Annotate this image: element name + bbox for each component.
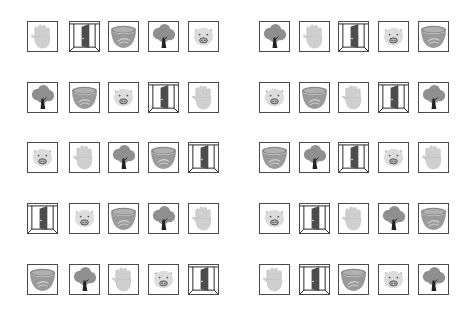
right-cell-r5-c4-pig bbox=[378, 264, 409, 295]
right-cell-r5-c1-hand bbox=[259, 264, 290, 295]
right-cell-r4-c4-tree bbox=[378, 203, 409, 234]
door-icon bbox=[339, 22, 368, 51]
right-cell-r3-c4-pig bbox=[378, 142, 409, 173]
left-cell-r5-c1-bowl bbox=[27, 264, 58, 295]
left-cell-r2-c2-bowl bbox=[69, 82, 100, 113]
tree-icon bbox=[260, 22, 289, 51]
left-cell-r5-c2-tree bbox=[69, 264, 100, 295]
bowl-icon bbox=[339, 265, 368, 294]
right-cell-r5-c5-tree bbox=[418, 264, 449, 295]
right-cell-r1-c1-tree bbox=[259, 21, 290, 52]
left-cell-r3-c5-door bbox=[188, 142, 219, 173]
door-icon bbox=[70, 22, 99, 51]
bowl-icon bbox=[300, 83, 329, 112]
right-cell-r4-c2-door bbox=[299, 203, 330, 234]
left-cell-r4-c3-bowl bbox=[108, 203, 139, 234]
pig-icon bbox=[28, 143, 57, 172]
bowl-icon bbox=[419, 22, 448, 51]
right-cell-r1-c2-hand bbox=[299, 21, 330, 52]
bowl-icon bbox=[109, 204, 138, 233]
pig-icon bbox=[260, 83, 289, 112]
door-icon bbox=[149, 83, 178, 112]
bowl-icon bbox=[419, 204, 448, 233]
tree-icon bbox=[149, 22, 178, 51]
tree-icon bbox=[149, 204, 178, 233]
right-cell-r5-c2-door bbox=[299, 264, 330, 295]
left-cell-r4-c1-door bbox=[27, 203, 58, 234]
right-cell-r5-c3-bowl bbox=[338, 264, 369, 295]
door-icon bbox=[189, 265, 218, 294]
door-icon bbox=[300, 204, 329, 233]
right-cell-r4-c1-pig bbox=[259, 203, 290, 234]
bowl-icon bbox=[260, 143, 289, 172]
door-icon bbox=[28, 204, 57, 233]
left-cell-r1-c2-door bbox=[69, 21, 100, 52]
left-cell-r2-c3-pig bbox=[108, 82, 139, 113]
left-cell-r1-c4-tree bbox=[148, 21, 179, 52]
pig-icon bbox=[109, 83, 138, 112]
bowl-icon bbox=[70, 83, 99, 112]
hand-icon bbox=[28, 22, 57, 51]
hand-icon bbox=[339, 204, 368, 233]
hand-icon bbox=[260, 265, 289, 294]
right-cell-r2-c1-pig bbox=[259, 82, 290, 113]
pig-icon bbox=[70, 204, 99, 233]
right-cell-r3-c2-tree bbox=[299, 142, 330, 173]
hand-icon bbox=[189, 83, 218, 112]
right-cell-r1-c4-pig bbox=[378, 21, 409, 52]
hand-icon bbox=[300, 22, 329, 51]
left-cell-r1-c1-hand bbox=[27, 21, 58, 52]
tree-icon bbox=[419, 265, 448, 294]
tree-icon bbox=[70, 265, 99, 294]
pig-icon bbox=[260, 204, 289, 233]
hand-icon bbox=[339, 83, 368, 112]
door-icon bbox=[339, 143, 368, 172]
pig-icon bbox=[149, 265, 178, 294]
hand-icon bbox=[189, 204, 218, 233]
tree-icon bbox=[379, 204, 408, 233]
right-cell-r4-c5-bowl bbox=[418, 203, 449, 234]
tree-icon bbox=[419, 83, 448, 112]
door-icon bbox=[300, 265, 329, 294]
pig-icon bbox=[379, 265, 408, 294]
hand-icon bbox=[70, 143, 99, 172]
left-cell-r5-c4-pig bbox=[148, 264, 179, 295]
pig-icon bbox=[379, 22, 408, 51]
left-cell-r1-c5-pig bbox=[188, 21, 219, 52]
left-cell-r5-c5-door bbox=[188, 264, 219, 295]
bowl-icon bbox=[109, 22, 138, 51]
right-cell-r2-c2-bowl bbox=[299, 82, 330, 113]
right-cell-r2-c5-tree bbox=[418, 82, 449, 113]
left-cell-r4-c2-pig bbox=[69, 203, 100, 234]
right-cell-r1-c5-bowl bbox=[418, 21, 449, 52]
bowl-icon bbox=[28, 265, 57, 294]
left-cell-r3-c1-pig bbox=[27, 142, 58, 173]
hand-icon bbox=[109, 265, 138, 294]
bowl-icon bbox=[149, 143, 178, 172]
left-cell-r3-c3-tree bbox=[108, 142, 139, 173]
right-cell-r2-c3-hand bbox=[338, 82, 369, 113]
tree-icon bbox=[109, 143, 138, 172]
tree-icon bbox=[300, 143, 329, 172]
pig-icon bbox=[189, 22, 218, 51]
right-cell-r3-c1-bowl bbox=[259, 142, 290, 173]
right-cell-r3-c5-hand bbox=[418, 142, 449, 173]
left-cell-r4-c4-tree bbox=[148, 203, 179, 234]
door-icon bbox=[189, 143, 218, 172]
right-cell-r3-c3-door bbox=[338, 142, 369, 173]
door-icon bbox=[379, 83, 408, 112]
left-cell-r3-c2-hand bbox=[69, 142, 100, 173]
hand-icon bbox=[419, 143, 448, 172]
left-cell-r1-c3-bowl bbox=[108, 21, 139, 52]
tree-icon bbox=[28, 83, 57, 112]
right-cell-r2-c4-door bbox=[378, 82, 409, 113]
left-cell-r2-c1-tree bbox=[27, 82, 58, 113]
left-cell-r3-c4-bowl bbox=[148, 142, 179, 173]
pig-icon bbox=[379, 143, 408, 172]
left-cell-r2-c4-door bbox=[148, 82, 179, 113]
left-cell-r2-c5-hand bbox=[188, 82, 219, 113]
left-cell-r4-c5-hand bbox=[188, 203, 219, 234]
right-cell-r4-c3-hand bbox=[338, 203, 369, 234]
left-cell-r5-c3-hand bbox=[108, 264, 139, 295]
right-cell-r1-c3-door bbox=[338, 21, 369, 52]
